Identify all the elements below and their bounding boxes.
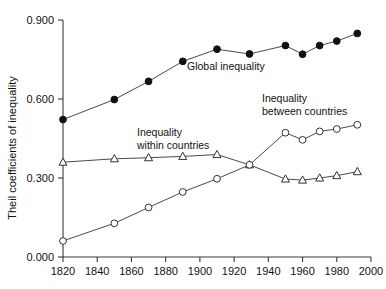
- inequality-line-chart: Theil coefficients of inequality 0.0000.…: [0, 0, 386, 289]
- data-point-filled-circle: [282, 42, 289, 49]
- data-point-filled-circle: [354, 30, 361, 37]
- data-point-open-circle: [282, 129, 289, 136]
- data-point-open-circle: [214, 175, 221, 182]
- data-point-open-circle: [354, 121, 361, 128]
- x-axis-ticks: 1820184018601880190019201940196019802000: [51, 257, 383, 277]
- x-tick-label: 1840: [85, 265, 109, 277]
- annotation-between-label-line1: Inequality: [262, 92, 308, 104]
- series-line-open-circle: [63, 125, 357, 241]
- data-point-filled-circle: [246, 51, 253, 58]
- x-tick-label: 1900: [188, 265, 212, 277]
- y-tick-label: 0.300: [26, 172, 54, 184]
- data-point-open-circle: [316, 128, 323, 135]
- chart-container: Theil coefficients of inequality 0.0000.…: [0, 0, 386, 289]
- y-tick-label: 0.000: [26, 251, 54, 263]
- annotation-within-label-line2: within countries: [136, 139, 209, 151]
- x-tick-label: 1820: [51, 265, 75, 277]
- data-point-open-triangle: [213, 150, 221, 157]
- x-tick-label: 1920: [222, 265, 246, 277]
- y-axis-title: Theil coefficients of inequality: [6, 76, 18, 220]
- annotation-within-countries: Inequality within countries: [136, 126, 209, 151]
- y-axis-title-group: Theil coefficients of inequality: [6, 76, 18, 220]
- annotation-global-label: Global inequality: [187, 60, 265, 72]
- data-point-open-circle: [179, 189, 186, 196]
- annotation-between-label-line2: between countries: [262, 105, 347, 117]
- annotation-within-label-line1: Inequality: [137, 126, 183, 138]
- data-point-filled-circle: [111, 96, 118, 103]
- annotation-between-countries: Inequality between countries: [262, 92, 347, 117]
- data-point-filled-circle: [60, 116, 67, 123]
- series-2: [59, 150, 361, 183]
- data-point-open-circle: [333, 126, 340, 133]
- annotation-global-inequality: Global inequality: [187, 60, 265, 72]
- x-tick-label: 1880: [153, 265, 177, 277]
- x-tick-label: 1940: [256, 265, 280, 277]
- y-tick-label: 0.900: [26, 14, 54, 26]
- data-point-filled-circle: [214, 46, 221, 53]
- data-point-filled-circle: [316, 42, 323, 49]
- data-point-filled-circle: [333, 38, 340, 45]
- data-point-open-triangle: [110, 155, 118, 162]
- x-tick-label: 1960: [290, 265, 314, 277]
- data-point-filled-circle: [299, 51, 306, 58]
- data-point-open-circle: [111, 220, 118, 227]
- x-tick-label: 1980: [325, 265, 349, 277]
- y-tick-label: 0.600: [26, 93, 54, 105]
- y-axis-ticks: 0.0000.3000.6000.900: [26, 14, 63, 263]
- data-point-open-circle: [299, 136, 306, 143]
- data-point-filled-circle: [145, 78, 152, 85]
- data-point-open-circle: [145, 204, 152, 211]
- series-line-open-triangle: [63, 155, 357, 181]
- x-tick-label: 1860: [119, 265, 143, 277]
- x-tick-label: 2000: [359, 265, 383, 277]
- data-point-open-circle: [246, 161, 253, 168]
- data-point-open-triangle: [353, 167, 361, 174]
- data-point-open-circle: [60, 238, 67, 245]
- data-point-filled-circle: [179, 58, 186, 65]
- series-3: [60, 121, 361, 244]
